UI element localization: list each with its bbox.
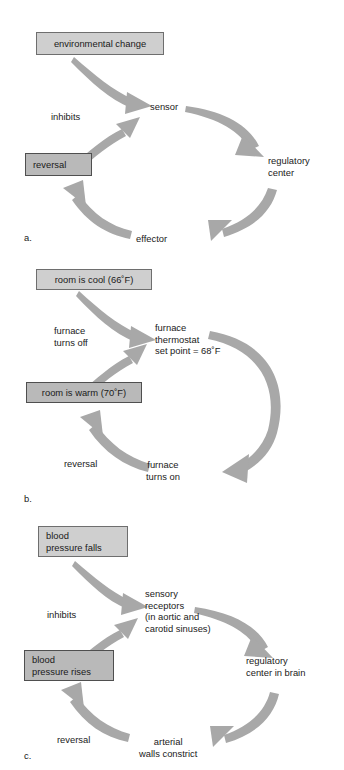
node-room-is-cool[interactable]: room is cool (66˚F) (36, 269, 152, 290)
node-environmental-change[interactable]: environmental change (36, 32, 164, 55)
arrow-stimulus-to-sensor (71, 57, 152, 114)
node-effector: effector (136, 233, 167, 245)
node-regulatory-center: regulatory center (268, 155, 310, 178)
panel-b: room is cool (66˚F) furnace thermostat s… (0, 255, 344, 505)
edge-label-inhibits: inhibits (51, 111, 80, 123)
panel-letter-a: a. (24, 232, 32, 243)
arrow-regulatory-to-effector (208, 188, 277, 241)
node-regulatory-center-in-brain: regulatory center in brain (246, 655, 305, 678)
panel-letter-b: b. (24, 493, 32, 504)
arrow-stimulus-to-sensor (72, 561, 148, 615)
edge-label-furnace-turns-off: furnace turns off (54, 325, 88, 348)
node-arterial-walls-constrict: arterial walls constrict (139, 736, 197, 759)
node-reversal[interactable]: reversal (25, 153, 92, 176)
edge-label-reversal: reversal (64, 458, 97, 470)
edge-label-inhibits: inhibits (47, 609, 76, 621)
arrow-effector-to-reversal (63, 180, 132, 239)
arrow-sensor-to-regulatory (185, 106, 264, 157)
arrow-regulatory-to-effector (210, 692, 279, 747)
node-sensor: sensor (150, 101, 178, 113)
node-room-is-warm[interactable]: room is warm (70˚F) (26, 382, 142, 403)
node-furnace-thermostat: furnace thermostat set point = 68˚F (155, 322, 220, 357)
node-furnace-turns-on: furnace turns on (146, 459, 180, 482)
node-blood-pressure-falls[interactable]: blood pressure falls (38, 526, 128, 557)
panel-letter-c: c. (24, 750, 31, 761)
arrow-effector-to-reversal (61, 682, 130, 742)
edge-label-reversal: reversal (57, 734, 90, 746)
node-blood-pressure-rises[interactable]: blood pressure rises (24, 650, 114, 681)
panel-c: blood pressure falls sensory receptors (… (0, 505, 344, 770)
arrow-stimulus-to-sensor (76, 291, 156, 348)
node-sensory-receptors: sensory receptors (in aortic and carotid… (145, 588, 211, 634)
panel-a: environmental change sensor regulatory c… (0, 0, 344, 255)
